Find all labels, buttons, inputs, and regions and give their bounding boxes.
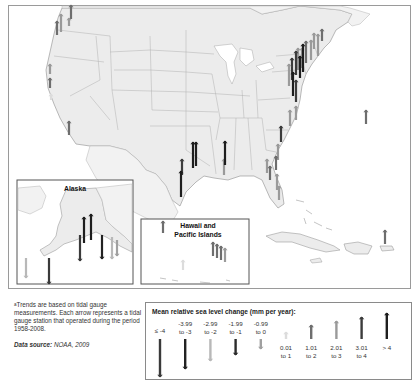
hawaii-inset-title: Hawaii and Pacific Islands: [173, 221, 224, 239]
legend-arrow-down-icon: [157, 339, 163, 378]
puerto-rico-land: [380, 246, 394, 251]
contiguous-us-land: [46, 6, 352, 208]
alaska-inset-title: Alaska: [58, 184, 92, 193]
footnote: aTrends are based on tidal gauge measure…: [14, 301, 144, 333]
arrow-up-icon: [363, 110, 368, 125]
legend-arrow-up-icon: [359, 317, 365, 340]
bahamas-islands: [296, 200, 332, 230]
sea-level-map: [0, 0, 416, 290]
hispaniola-land: [344, 242, 372, 254]
legend-label-line2: to 4: [347, 352, 377, 360]
legend: Mean relative sea level change (mm per y…: [145, 302, 412, 380]
data-source: Data source: NOAA, 2009: [14, 341, 89, 348]
legend-arrow-down-icon: [182, 339, 188, 370]
legend-label-line1: -0.99: [246, 320, 276, 328]
legend-arrows: [146, 303, 413, 381]
legend-arrow-up-icon: [384, 313, 390, 340]
legend-arrow-up-icon: [308, 325, 314, 340]
legend-arrow-down-icon: [208, 339, 214, 362]
footnote-text: Trends are based on tidal gauge measurem…: [14, 301, 141, 332]
legend-label: -0.99to 0: [246, 320, 276, 335]
arrow-up-icon: [382, 230, 387, 245]
legend-label-line2: to 0: [246, 328, 276, 336]
data-source-label: Data source:: [14, 341, 52, 348]
cuba-land: [266, 232, 340, 252]
legend-label-line1: > 4: [372, 344, 402, 352]
legend-arrow-up-icon: [334, 321, 340, 340]
arrow-up-icon: [273, 156, 278, 171]
legend-arrow-down-icon: [258, 339, 264, 350]
jamaica-land: [310, 258, 322, 263]
data-source-value: NOAA, 2009: [54, 341, 89, 348]
legend-arrow-up-icon: [283, 332, 289, 340]
legend-arrow-down-icon: [233, 339, 239, 356]
legend-label: > 4: [372, 344, 402, 352]
